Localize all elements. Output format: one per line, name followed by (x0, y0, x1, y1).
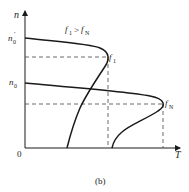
x-axis-label: T (175, 149, 182, 160)
curve-f1 (25, 38, 108, 148)
svg-text:0: 0 (14, 83, 17, 89)
svg-text:′: ′ (14, 30, 16, 38)
tick-n0-prime: n 0 ′ (8, 30, 16, 45)
svg-text:0: 0 (13, 39, 16, 45)
tick-n0: n 0 (9, 77, 17, 89)
svg-text:>: > (74, 25, 79, 35)
svg-text:N: N (169, 104, 174, 110)
label-fN: f N (165, 98, 174, 110)
torque-speed-diagram: n T 0 n 0 ′ n 0 f 1 > f N f 1 f N (b) (0, 0, 189, 192)
svg-text:N: N (85, 30, 90, 36)
caption: (b) (95, 176, 106, 186)
y-axis-label: n (14, 9, 19, 20)
svg-text:1: 1 (113, 58, 116, 64)
svg-text:1: 1 (69, 30, 72, 36)
curve-fN (25, 83, 163, 148)
label-f1: f 1 (109, 52, 116, 64)
origin-label: 0 (17, 149, 22, 159)
condition-label: f 1 > f N (65, 24, 90, 36)
